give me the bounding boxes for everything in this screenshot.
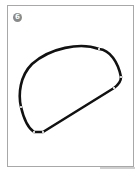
curve-node-marker (120, 76, 122, 78)
curve-node-marker (20, 106, 22, 108)
curve-node-marker (42, 131, 44, 133)
closed-curve-outline (20, 46, 121, 132)
curve-node-marker (98, 48, 100, 50)
curve-diagram (0, 0, 139, 171)
curve-node-marker (33, 131, 35, 133)
curve-node-marker (113, 87, 115, 89)
